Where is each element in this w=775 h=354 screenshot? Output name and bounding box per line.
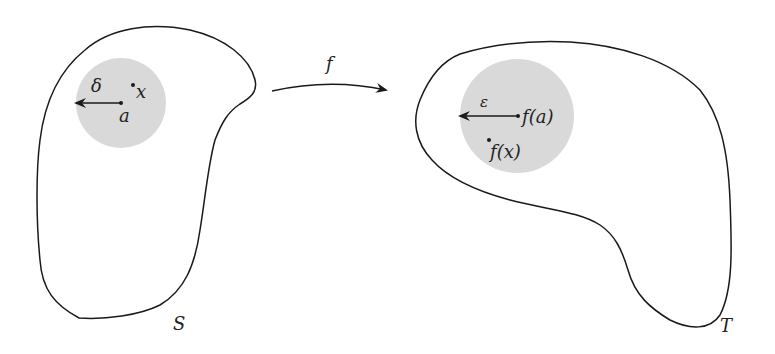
- set-t-outline: [416, 42, 731, 327]
- set-t-label: T: [720, 315, 734, 336]
- a-label: a: [119, 105, 130, 126]
- diagram-svg: δ x a S f ε f(a) f(x) T: [0, 0, 775, 354]
- epsilon-label: ε: [480, 93, 488, 111]
- map-arrow: [272, 84, 386, 91]
- fx-label: f(x): [488, 141, 521, 162]
- delta-label: δ: [91, 75, 102, 96]
- point-x: [131, 83, 135, 87]
- x-label: x: [136, 81, 146, 102]
- continuity-diagram: δ x a S f ε f(a) f(x) T: [0, 0, 775, 354]
- map-label: f: [324, 53, 336, 74]
- point-fa: [516, 114, 520, 118]
- set-s-label: S: [173, 313, 185, 334]
- fa-label: f(a): [520, 106, 553, 127]
